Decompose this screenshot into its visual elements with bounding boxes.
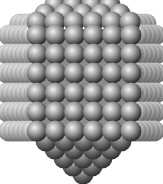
front-sphere	[83, 25, 104, 46]
front-sphere	[102, 121, 123, 142]
front-sphere	[27, 83, 48, 104]
front-sphere	[45, 121, 66, 142]
front-sphere	[45, 83, 66, 104]
front-sphere	[102, 44, 123, 65]
front-sphere	[64, 44, 85, 65]
front-sphere	[83, 44, 104, 65]
front-sphere	[83, 102, 104, 123]
front-sphere	[27, 44, 48, 65]
front-sphere	[45, 102, 66, 123]
front-sphere	[121, 83, 142, 104]
front-sphere	[121, 121, 142, 142]
front-sphere	[27, 25, 48, 46]
front-sphere	[64, 83, 85, 104]
nanocrystal-figure: Nanocrystal atom cluster	[0, 0, 163, 184]
front-sphere	[121, 102, 142, 123]
front-sphere	[45, 63, 66, 84]
front-sphere	[83, 83, 104, 104]
front-sphere	[121, 63, 142, 84]
front-sphere	[83, 121, 104, 142]
front-sphere	[64, 121, 85, 142]
front-sphere	[121, 44, 142, 65]
front-sphere	[45, 25, 66, 46]
front-sphere	[83, 63, 104, 84]
front-sphere	[45, 44, 66, 65]
front-sphere	[102, 83, 123, 104]
front-sphere	[27, 102, 48, 123]
front-sphere	[27, 121, 48, 142]
front-sphere	[121, 25, 142, 46]
front-sphere	[64, 25, 85, 46]
front-sphere	[102, 63, 123, 84]
crystal-cluster-graphic	[0, 0, 163, 184]
front-sphere	[27, 63, 48, 84]
front-sphere	[64, 63, 85, 84]
front-sphere	[102, 25, 123, 46]
front-sphere	[64, 102, 85, 123]
front-sphere	[102, 102, 123, 123]
